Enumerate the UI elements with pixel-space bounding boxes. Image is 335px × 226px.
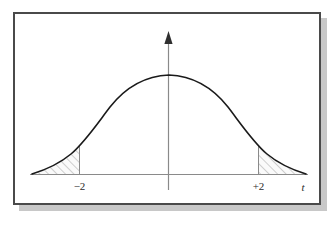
left-critical-value-label: −2 — [74, 180, 86, 192]
figure-frame: −2 +2 t — [13, 12, 321, 205]
figure-root: −2 +2 t — [0, 0, 335, 226]
t-axis-label: t — [301, 181, 305, 193]
left-tail-shaded-region — [32, 146, 79, 174]
right-tail-shaded-region — [259, 146, 306, 174]
distribution-plot: −2 +2 t — [15, 14, 319, 203]
right-critical-value-label: +2 — [253, 180, 265, 192]
vertical-axis-arrowhead-icon — [164, 31, 172, 44]
